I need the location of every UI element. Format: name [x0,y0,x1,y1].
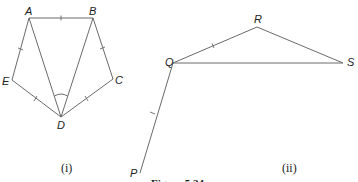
figure-canvas: A B C D E (i) P Q R S (ii) Figure 5.24 [0,0,358,182]
tick-CD [85,96,88,101]
point-label-C: C [115,74,123,86]
segment-RS [257,27,343,63]
segment-QR [173,27,257,63]
segment-CD [61,79,113,117]
point-label-S: S [347,56,355,68]
point-label-B: B [89,5,96,17]
segment-PQ [140,63,173,173]
figure-label-ii: (ii) [282,161,297,175]
angle-mark-ADB [55,94,68,96]
point-label-R: R [254,13,262,25]
point-label-D: D [57,119,65,131]
segment-BD [61,18,93,117]
point-label-A: A [24,5,32,17]
point-label-Q: Q [165,56,174,68]
figure-ii: P Q R S (ii) [130,13,355,179]
segment-AD [29,18,61,117]
segment-ED [12,80,61,117]
figure-i: A B C D E (i) [2,5,123,175]
figure-label-i: (i) [61,161,72,175]
segment-BC [93,18,113,79]
point-label-P: P [130,167,138,179]
point-label-E: E [2,75,10,87]
tick-PQ [150,112,155,114]
figure-caption: Figure 5.24 [151,177,204,182]
